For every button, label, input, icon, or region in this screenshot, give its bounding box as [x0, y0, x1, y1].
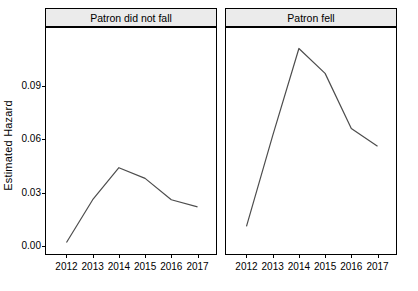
y-tick-mark: [42, 193, 45, 194]
line-series-0: [46, 28, 216, 254]
y-tick-mark: [42, 86, 45, 87]
x-tick-mark: [93, 255, 94, 258]
line-series-1: [226, 28, 396, 254]
chart-container: Estimated Hazard 0.00 0.03 0.06 0.09 Pat…: [0, 0, 418, 291]
x-tick-mark: [378, 255, 379, 258]
x-tick-mark: [119, 255, 120, 258]
panel-patron-did-not-fall: Patron did not fall: [45, 8, 217, 255]
panel-strip-label-1: Patron fell: [225, 8, 397, 27]
x-tick-mark: [171, 255, 172, 258]
y-tick-mark: [42, 246, 45, 247]
x-tick-mark: [198, 255, 199, 258]
panel-patron-fell: Patron fell: [225, 8, 397, 255]
panel-strip-label-0: Patron did not fall: [45, 8, 217, 27]
y-tick-mark: [42, 139, 45, 140]
x-tick-mark: [325, 255, 326, 258]
x-tick-mark: [145, 255, 146, 258]
x-tick-mark: [246, 255, 247, 258]
y-tick-label-0: 0.00: [10, 240, 41, 251]
x-tick-label: 2017: [182, 261, 214, 272]
x-tick-mark: [299, 255, 300, 258]
panel-plot-area-1: [225, 27, 397, 255]
panel-plot-area-0: [45, 27, 217, 255]
y-tick-label-2: 0.06: [10, 133, 41, 144]
x-tick-mark: [351, 255, 352, 258]
y-tick-label-3: 0.09: [10, 80, 41, 91]
y-tick-label-1: 0.03: [10, 187, 41, 198]
x-tick-mark: [273, 255, 274, 258]
x-tick-mark: [66, 255, 67, 258]
x-tick-label: 2017: [362, 261, 394, 272]
